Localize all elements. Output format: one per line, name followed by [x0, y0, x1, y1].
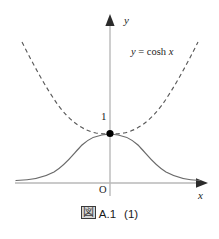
- figure-container: y x O 1 y = cosh x 図A.1(1): [0, 0, 219, 239]
- y-axis-label: y: [124, 15, 129, 26]
- equation-argument: x: [169, 46, 174, 57]
- caption-cjk-glyph: 図: [81, 206, 96, 219]
- y-axis-arrow-icon: [105, 14, 114, 26]
- caption-number: A.1: [99, 208, 116, 220]
- sech-curve: [16, 134, 200, 181]
- plot-canvas: [0, 0, 219, 239]
- cosh-equation-label: y = cosh x: [131, 47, 173, 58]
- caption-suffix: (1): [124, 208, 138, 220]
- x-axis-arrow-icon: [196, 178, 208, 188]
- equation-operator: = cosh: [136, 46, 169, 57]
- figure-caption: 図A.1(1): [0, 206, 219, 221]
- origin-label: O: [99, 185, 107, 196]
- x-axis-label: x: [198, 190, 203, 201]
- y-axis-tick-label-1: 1: [101, 111, 107, 122]
- intersection-point-marker: [106, 130, 113, 137]
